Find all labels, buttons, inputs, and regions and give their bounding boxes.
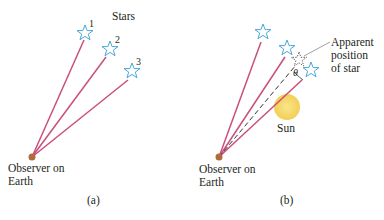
sun [274, 94, 300, 120]
sun-label: Sun [277, 122, 295, 135]
apparent-label-line2: position [331, 49, 368, 62]
observer-dot-b [216, 154, 223, 161]
star-number-3: 3 [136, 56, 141, 67]
star-number-2: 2 [115, 34, 120, 45]
observer-label-b-line1: Observer on [199, 163, 256, 176]
star-number-1: 1 [89, 18, 94, 29]
panel-b-stars [255, 24, 319, 77]
observer-label-b-line2: Earth [199, 176, 224, 189]
panel-a-rays [32, 40, 128, 157]
caption-b: (b) [280, 194, 293, 206]
apparent-label-line1: Apparent [331, 36, 374, 49]
stars-label: Stars [112, 10, 135, 23]
panel-a-stars [77, 25, 140, 78]
apparent-star-icon [291, 52, 306, 66]
angle-theta-label: θ [293, 67, 298, 78]
diagram-canvas [0, 0, 384, 220]
star-icon-b2 [279, 40, 295, 55]
observer-label-a-line1: Observer on [8, 162, 65, 175]
ray-b-star-1 [219, 42, 261, 157]
caption-a: (a) [87, 194, 100, 206]
observer-label-a-line2: Earth [8, 175, 33, 188]
star-icon-b3 [303, 62, 319, 77]
star-icon-b1 [255, 24, 271, 39]
apparent-leader-line [304, 42, 330, 56]
observer-dot-a [29, 154, 36, 161]
apparent-label-line3: of star [331, 62, 360, 75]
